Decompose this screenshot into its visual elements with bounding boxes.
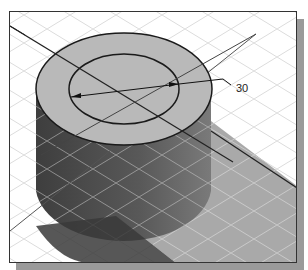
cylinder-top-face[interactable] [36,33,212,145]
model-drawing [10,12,296,262]
graphics-viewport[interactable]: 30 [9,11,297,263]
dimension-label: 30 [236,82,248,94]
